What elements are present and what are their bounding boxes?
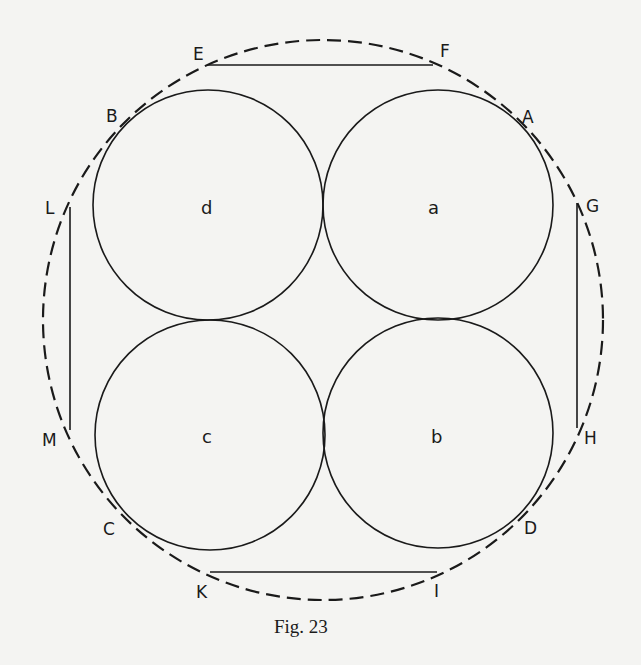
point-label-G: G — [586, 196, 599, 216]
figure-caption: Fig. 23 — [274, 616, 328, 637]
circle-label-a: a — [428, 197, 439, 218]
point-label-E: E — [193, 44, 204, 64]
point-label-K: K — [196, 582, 208, 602]
point-label-B: B — [106, 106, 118, 126]
circle-label-c: c — [202, 426, 212, 447]
small-circles-group — [93, 90, 553, 550]
point-label-H: H — [584, 428, 597, 448]
segments-group — [70, 65, 577, 572]
circle-label-d: d — [201, 197, 212, 218]
point-label-F: F — [440, 41, 450, 61]
point-label-C: C — [103, 519, 115, 539]
point-label-I: I — [434, 581, 439, 601]
point-label-L: L — [45, 198, 55, 218]
circle-label-b: b — [431, 426, 442, 447]
point-label-M: M — [42, 430, 57, 450]
point-label-D: D — [524, 518, 537, 538]
geometry-figure: EFBALGMHCDKI dacb Fig. 23 — [0, 0, 641, 665]
point-label-A: A — [522, 107, 534, 127]
